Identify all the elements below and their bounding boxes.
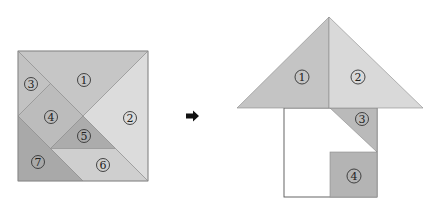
house-piece-1: [237, 17, 329, 108]
svg-text:6: 6: [100, 159, 107, 172]
svg-text:4: 4: [351, 170, 358, 183]
svg-text:1: 1: [299, 71, 306, 84]
svg-text:5: 5: [81, 130, 88, 143]
svg-text:7: 7: [35, 156, 42, 169]
svg-text:3: 3: [359, 113, 366, 126]
svg-text:2: 2: [127, 112, 134, 125]
svg-text:2: 2: [355, 71, 362, 84]
svg-text:3: 3: [28, 78, 35, 91]
svg-text:1: 1: [81, 74, 88, 87]
tangram-square: 1 2 3 4 5 6 7: [18, 51, 148, 181]
house-piece-2: [329, 17, 423, 108]
right-arrow-icon: [186, 111, 199, 122]
svg-text:4: 4: [48, 111, 55, 124]
house-figure: 1 2 3 4: [237, 17, 423, 197]
tangram-diagram: 1 2 3 4 5 6 7 1 2 3 4: [0, 0, 437, 208]
